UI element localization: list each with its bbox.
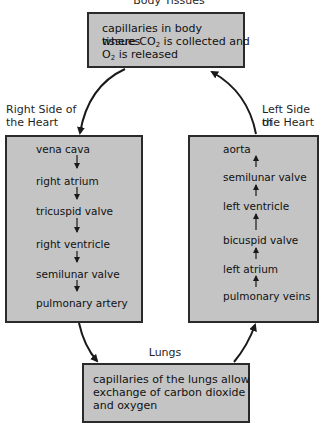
right-heart-title-line1: Right Side of (6, 103, 76, 116)
body-tissues-line3: O2 is released (102, 48, 178, 61)
right-heart-step: right atrium (36, 175, 141, 187)
body-tissues-line2: where CO2 is collected and (102, 35, 250, 48)
lungs-title: Lungs (140, 346, 190, 359)
left-heart-box: aorta semilunar valve left ventricle bic… (188, 135, 319, 323)
right-heart-title-line2: the Heart (6, 116, 58, 129)
collected-text: is collected and (160, 35, 250, 48)
body-tissues-title: Body Tissues (124, 0, 214, 7)
left-heart-step: left atrium (223, 263, 317, 275)
left-heart-step: semilunar valve (223, 171, 317, 183)
arrow-left-heart-to-tissues (212, 72, 256, 134)
right-heart-step: semilunar valve (36, 268, 141, 280)
lungs-line3: and oxygen (93, 399, 157, 412)
left-heart-step: bicuspid valve (223, 234, 317, 246)
arrow-tissues-to-right-heart (80, 69, 125, 133)
o2-text: O (102, 48, 111, 61)
lungs-line1: capillaries of the lungs allow (93, 373, 250, 386)
lungs-line2: exchange of carbon dioxide (93, 386, 245, 399)
left-heart-step: left ventricle (223, 200, 317, 212)
arrow-lungs-to-left-heart (234, 325, 255, 362)
right-heart-step: tricuspid valve (36, 205, 141, 217)
left-heart-step: pulmonary veins (223, 290, 317, 302)
right-heart-step: right ventricle (36, 238, 141, 250)
left-heart-title-line2: the Heart (262, 116, 314, 129)
right-heart-box: vena cava right atrium tricuspid valve r… (5, 135, 143, 323)
lungs-box: capillaries of the lungs allow exchange … (82, 363, 250, 423)
released-text: is released (115, 48, 178, 61)
co2-text: where CO (102, 35, 156, 48)
arrow-right-heart-to-lungs (79, 323, 97, 361)
body-tissues-box: capillaries in body tissues where CO2 is… (87, 12, 245, 68)
right-heart-step: vena cava (36, 143, 141, 155)
right-heart-step: pulmonary artery (36, 297, 141, 309)
left-heart-step: aorta (223, 143, 317, 155)
